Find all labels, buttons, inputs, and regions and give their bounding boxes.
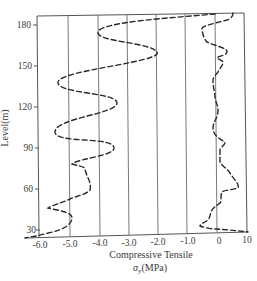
plot-frame [25, 13, 248, 238]
y-tick-label: 180 [17, 20, 32, 30]
y-tick-label: 90 [24, 143, 34, 153]
x-tick-label: 0 [217, 236, 222, 246]
y-tick-label: 30 [27, 225, 37, 235]
x-tick-label: -1.0 [180, 236, 195, 246]
x-tick-label: -2.0 [150, 237, 165, 247]
unit-label: (MPa) [141, 262, 167, 274]
tensile-curve [200, 13, 248, 232]
x-tick-label: -3.0 [121, 238, 136, 248]
gridline-minus-5 [68, 15, 70, 236]
gridline-minus-1 [185, 14, 187, 234]
y-tick-label: 60 [24, 184, 34, 194]
left-axis [37, 16, 39, 237]
y-tick-labels: 180 150 120 90 60 30 [17, 20, 37, 235]
gridline-minus-3 [127, 15, 129, 235]
x-tick-label: -6.0 [32, 240, 47, 250]
x-tick-label: -5.0 [62, 239, 77, 249]
y-tick-label: 120 [18, 102, 33, 112]
stress-level-chart: 180 150 120 90 60 30 -6.0 -5.0 -4.0 -3.0… [0, 0, 257, 281]
right-axis [244, 13, 247, 232]
gridline-minus-2 [156, 14, 158, 234]
x-axis-title: Compressive Tensile [109, 249, 193, 260]
vertical-gridlines [68, 14, 217, 236]
x-axis-unit: σy(MPa) [133, 262, 167, 275]
y-axis-title: Level(m) [0, 109, 11, 146]
x-tick-label: 10 [242, 235, 252, 245]
x-tick-label: -4.0 [92, 238, 107, 248]
gridline-minus-4 [98, 15, 100, 236]
gridline-zero [215, 14, 217, 233]
y-tick-label: 150 [18, 61, 33, 71]
